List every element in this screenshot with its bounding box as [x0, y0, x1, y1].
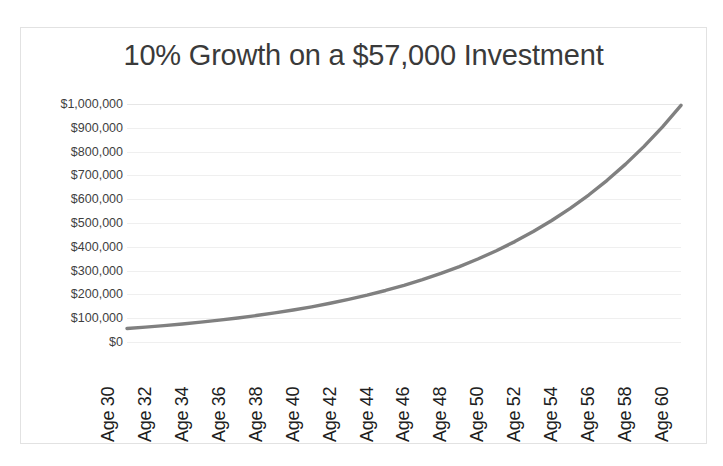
x-axis-tick-label: Age 30	[98, 387, 119, 442]
x-axis-tick-label: Age 50	[467, 387, 488, 442]
x-axis-tick-label: Age 44	[357, 387, 378, 442]
x-axis-tick-label: Age 32	[135, 387, 156, 442]
y-axis-tick-label: $0	[109, 335, 123, 349]
y-axis-tick-label: $500,000	[71, 216, 123, 230]
x-axis-tick-label: Age 36	[209, 387, 230, 442]
y-axis-tick-label: $300,000	[71, 264, 123, 278]
y-axis-tick-label: $100,000	[71, 311, 123, 325]
line-series	[127, 104, 681, 342]
gridline	[127, 342, 681, 343]
chart-frame: 10% Growth on a $57,000 Investment $1,00…	[20, 27, 707, 444]
y-axis-tick-label: $600,000	[71, 192, 123, 206]
y-axis-tick-label: $200,000	[71, 287, 123, 301]
y-axis-labels: $1,000,000$900,000$800,000$700,000$600,0…	[29, 104, 123, 342]
x-axis-labels: Age 30Age 32Age 34Age 36Age 38Age 40Age …	[127, 346, 681, 442]
chart-title: 10% Growth on a $57,000 Investment	[21, 39, 706, 72]
y-axis-tick-label: $1,000,000	[60, 97, 123, 111]
y-axis-tick-label: $400,000	[71, 240, 123, 254]
x-axis-tick-label: Age 48	[430, 387, 451, 442]
x-axis-tick-label: Age 60	[652, 387, 673, 442]
x-axis-tick-label: Age 40	[283, 387, 304, 442]
x-axis-tick-label: Age 52	[504, 387, 525, 442]
y-axis-tick-label: $700,000	[71, 168, 123, 182]
y-axis-tick-label: $800,000	[71, 145, 123, 159]
growth-curve-path	[127, 105, 681, 328]
plot-area	[127, 104, 681, 342]
x-axis-tick-label: Age 38	[246, 387, 267, 442]
x-axis-tick-label: Age 56	[578, 387, 599, 442]
x-axis-tick-label: Age 46	[393, 387, 414, 442]
x-axis-tick-label: Age 54	[541, 387, 562, 442]
y-axis-tick-label: $900,000	[71, 121, 123, 135]
x-axis-tick-label: Age 34	[172, 387, 193, 442]
x-axis-tick-label: Age 58	[615, 387, 636, 442]
x-axis-tick-label: Age 42	[320, 387, 341, 442]
